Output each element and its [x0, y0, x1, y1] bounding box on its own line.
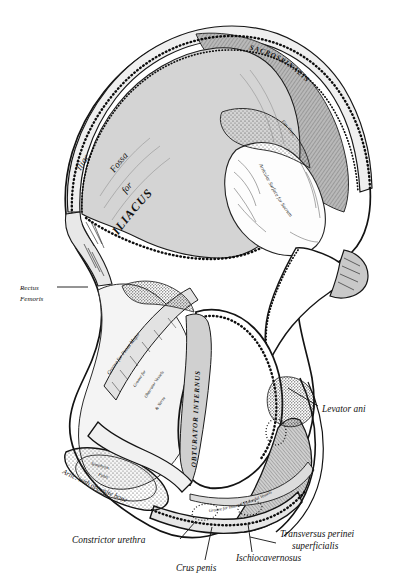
label-rectus-femoris-1: Rectus: [19, 284, 39, 292]
label-crus-penis: Crus penis: [176, 563, 217, 573]
hip-bone-illustration: Iliac Fossa for ILIACUS SACROSPINALIS Ar…: [0, 0, 398, 587]
label-transversus-2: superficialis: [292, 541, 339, 551]
label-levator-ani: Levator ani: [321, 404, 366, 414]
label-rectus-femoris-2: Femoris: [19, 295, 44, 303]
label-ischiocavernosus: Ischiocavernosus: [235, 553, 301, 563]
label-constrictor-urethra: Constrictor urethra: [72, 535, 146, 545]
label-transversus-1: Transversus perinei: [280, 529, 355, 539]
anatomical-figure: Iliac Fossa for ILIACUS SACROSPINALIS Ar…: [0, 0, 398, 587]
